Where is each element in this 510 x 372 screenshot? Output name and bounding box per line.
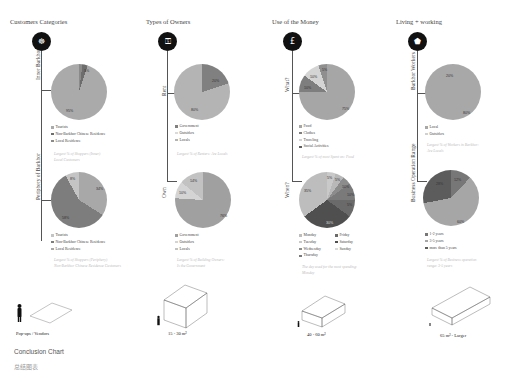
legend-item: Wednesday [299, 246, 335, 253]
section-label-what: What? [284, 78, 290, 92]
pie-what [299, 64, 355, 120]
legend: Monday Friday Tuesday Saturday Wednesday… [299, 232, 365, 259]
legend-item: Saturday [335, 239, 365, 246]
section-label-rent: Rent [161, 86, 167, 96]
note: Largest % of Renters: Are Locals [177, 152, 228, 158]
legend-item: Government [175, 123, 198, 130]
pie-when [299, 172, 355, 228]
legend-item: Non-Barkhor Chinese Residence [51, 131, 105, 138]
pie-inner-barkhor [51, 64, 107, 120]
size-label-vendors: Pop-ups / Vendors [16, 331, 49, 336]
note: Largest % of most Spent on: Food [302, 155, 354, 161]
conclusion-subtitle: 总结图表 [14, 362, 38, 371]
legend-item: Monday [299, 232, 335, 239]
note: Largest % of Building Owners: Is the Gov… [177, 258, 225, 269]
legend-item: Friday [335, 232, 365, 239]
person-icon [157, 316, 159, 325]
connector-line [417, 181, 427, 182]
pie-label: 10% [304, 86, 311, 90]
size-label-15-30: 15 - 30 m² [168, 331, 187, 336]
legend-item: Outsiders [175, 130, 198, 137]
timeline-line [292, 51, 293, 181]
legend: Government Outsiders Locals [175, 123, 198, 143]
pie-label: 5% [347, 203, 352, 207]
legend-item: Local Residence [51, 246, 105, 253]
pie-periphery-barkhor [51, 172, 107, 228]
column-title: Living + working [396, 18, 442, 25]
legend-item: Government [175, 232, 198, 239]
person-icon [430, 323, 431, 326]
pie-rent [174, 64, 230, 120]
size-label-65-larger: 65 m² - Larger [440, 333, 466, 338]
section-label-own: Own [161, 187, 167, 198]
connector-line [292, 181, 302, 182]
legend-item: Clothes [299, 130, 329, 137]
pie-label: 10% [347, 193, 354, 197]
timeline-line [417, 51, 418, 181]
legend-item: Traveling [299, 137, 329, 144]
column-living-working: Living + working ⬟ Barkhor Workers Busin… [390, 0, 510, 270]
pie-label: 76% [220, 214, 227, 218]
pie-label: 20% [212, 79, 219, 83]
section-label-when: When? [284, 182, 290, 198]
column-title: Use of the Money [272, 18, 319, 25]
vendor-plot [30, 303, 72, 323]
column-use-of-money: Use of the Money £ What? When? 5% 10% 10… [260, 0, 388, 270]
legend-item: Outsiders [425, 131, 444, 138]
legend-item: Tourists [51, 124, 105, 131]
legend-item: Outsiders [175, 239, 198, 246]
pie-own [175, 172, 231, 228]
legend-item: Tuesday [299, 239, 335, 246]
note: Largest % of Business operation range: 3… [427, 258, 476, 269]
house-icon: ⬟ [408, 32, 427, 51]
legend: Tourists Non-Barkhor Chinese Residence L… [51, 232, 105, 252]
box-15-30 [164, 285, 207, 328]
section-label-periphery: Periphery of Barkhor [35, 153, 41, 200]
pie-label: 5% [322, 68, 327, 72]
person-icon [298, 321, 300, 327]
legend-item: Local [425, 124, 444, 131]
pie-label: 10% [342, 185, 349, 189]
section-label-operation-range: Business Operation Range [410, 144, 416, 202]
column-customers-categories: Customers Categories ☸ Inner Barkhor Per… [0, 0, 128, 270]
legend-item: Locals [175, 246, 198, 253]
pie-label: 30% [326, 221, 333, 225]
size-label-40-60: 40 - 60 m² [307, 332, 326, 337]
note: Largest % of Shoppers (Inner) Local Cust… [54, 152, 100, 163]
legend-item: Locals [175, 137, 198, 144]
pie-label: 8% [70, 177, 75, 181]
person-icon [18, 304, 22, 322]
note: Largest % of Shoppers (Periphery) Non-Ba… [54, 258, 121, 269]
pie-label: 80% [191, 108, 198, 112]
box-65-larger [432, 287, 490, 325]
column-title: Types of Owners [146, 18, 190, 25]
connector-line [167, 181, 177, 182]
pie-label: 20% [446, 74, 453, 78]
pie-label: 34% [96, 187, 103, 191]
column-types-of-owners: Types of Owners ⚿ Rent Own 20% 80% Gover… [130, 0, 258, 270]
connector-line [41, 90, 51, 91]
pie-label: 75% [342, 107, 349, 111]
owners-icon: ⚿ [158, 32, 177, 51]
legend: Local Outsiders [425, 124, 444, 138]
box-40-60 [302, 296, 345, 327]
pie-operation-range [423, 170, 479, 226]
note: The day used for the most spending: Mond… [302, 265, 357, 276]
pie-label: 12% [454, 178, 461, 182]
pie-label: 80% [463, 111, 470, 115]
column-title: Customers Categories [10, 18, 67, 25]
legend-item: 1-2 years [425, 231, 457, 238]
legend-item: Food [299, 123, 329, 130]
note: Largest % of Workers in Barkhor: Are Loc… [427, 143, 479, 154]
pie-label: 35% [304, 189, 311, 193]
legend: Food Clothes Traveling Social Activities [299, 123, 329, 150]
legend-item: Tourists [51, 232, 105, 239]
money-icon: £ [283, 32, 302, 51]
pie-label: 10% [179, 191, 186, 195]
pie-label: 5% [327, 176, 332, 180]
conclusion-title: Conclusion Chart [14, 348, 64, 355]
pie-label: 5% [335, 178, 340, 182]
legend-item: more than 5 years [425, 245, 457, 252]
section-label-inner: Inner Barkhor [35, 49, 41, 80]
pie-label: 60% [457, 220, 464, 224]
